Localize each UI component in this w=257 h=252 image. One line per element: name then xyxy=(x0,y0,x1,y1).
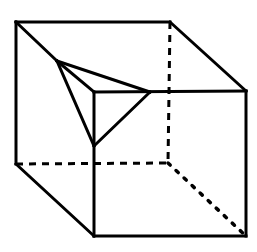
edge-cut-top-to-cut-right xyxy=(57,61,150,92)
cube-diagram xyxy=(0,0,257,252)
hidden-edge-back-top-right-to-back-bottom-right xyxy=(168,22,170,163)
edge-cut-bottom-to-cut-top xyxy=(57,61,94,146)
edge-cut-right-to-cut-bottom xyxy=(94,92,150,146)
edge-back-bottom-left-to-front-bottom-left xyxy=(16,164,94,236)
edge-back-top-left-to-cut-top xyxy=(16,22,57,61)
edge-back-top-right-to-front-top-right xyxy=(170,22,246,91)
hidden-edge-back-bottom-right-to-front-bottom-right xyxy=(168,163,246,236)
hidden-edges-dotted xyxy=(168,163,246,236)
hidden-edge-back-bottom-left-to-back-bottom-right xyxy=(16,163,168,164)
